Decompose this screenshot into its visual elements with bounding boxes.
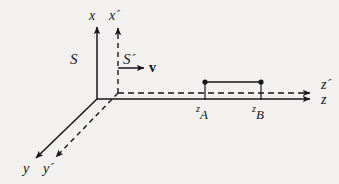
diagram-canvas xyxy=(0,0,339,184)
relativity-frames-figure: x x´ y y´ z´ z S S´ v zA zB xyxy=(0,0,339,184)
frame-label-s: S xyxy=(70,52,78,67)
y-axis-line xyxy=(36,99,97,158)
rod-endpoint-label-b: zB xyxy=(252,104,264,117)
z-prime-axis-label: z´ xyxy=(321,78,331,92)
x-axis-label: x xyxy=(89,9,95,23)
y-prime-axis-line xyxy=(56,93,118,157)
rod-endpoint-label-b-sub: B xyxy=(256,107,264,122)
y-prime-axis-label: y´ xyxy=(43,162,54,176)
rod-endpoint-label-a-sub: A xyxy=(200,107,208,122)
y-axis-label: y xyxy=(23,162,29,176)
velocity-label: v xyxy=(149,61,156,75)
rod-endpoint-label-a: zA xyxy=(196,104,208,117)
x-prime-axis-label: x´ xyxy=(109,9,120,23)
frame-label-s-prime: S´ xyxy=(123,52,136,67)
z-axis-label: z xyxy=(321,93,326,107)
